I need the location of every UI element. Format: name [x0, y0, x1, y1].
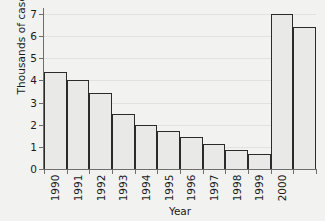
- bar-slot: [67, 14, 90, 169]
- bar: [203, 144, 226, 169]
- x-axis-tick-labels: 1990199119921993199419951996199719981999…: [44, 174, 316, 206]
- y-axis-tick-label: 6: [22, 31, 37, 41]
- bar-slot: [112, 14, 135, 169]
- y-axis-tick: [39, 58, 44, 59]
- bar-slot: [225, 14, 248, 169]
- bar-slot: [44, 14, 67, 169]
- x-axis-title: Year: [44, 205, 316, 217]
- y-axis-tick-label: 7: [22, 9, 37, 19]
- x-label-slot: 1991: [67, 174, 90, 206]
- x-label-slot: [293, 174, 316, 206]
- y-axis-tick: [39, 103, 44, 104]
- x-axis-tick-label: 1998: [231, 175, 243, 202]
- bar: [271, 14, 294, 169]
- bar-slot: [157, 14, 180, 169]
- bar-slot: [180, 14, 203, 169]
- bar: [225, 150, 248, 169]
- y-axis-tick: [39, 125, 44, 126]
- x-axis-tick-label: 1996: [185, 175, 197, 202]
- bar: [44, 72, 67, 169]
- bar: [89, 93, 112, 169]
- bar-series: [44, 14, 316, 169]
- y-axis-tick-label: 1: [22, 142, 37, 152]
- x-label-slot: 2000: [271, 174, 294, 206]
- x-label-slot: 1998: [225, 174, 248, 206]
- x-label-slot: 1996: [180, 174, 203, 206]
- y-axis-tick-label: 3: [22, 98, 37, 108]
- y-axis-tick: [39, 36, 44, 37]
- y-axis-tick-label: 5: [22, 53, 37, 63]
- x-label-slot: 1992: [89, 174, 112, 206]
- x-axis-tick-label: 1990: [49, 175, 61, 202]
- x-axis-tick-label: 1993: [117, 175, 129, 202]
- bar-slot: [135, 14, 158, 169]
- x-label-slot: 1994: [135, 174, 158, 206]
- x-label-slot: 1993: [112, 174, 135, 206]
- bar-slot: [248, 14, 271, 169]
- bar-chart: Thousands of cases 01234567 199019911992…: [0, 0, 325, 221]
- x-axis-tick: [316, 169, 317, 174]
- bar: [293, 27, 316, 169]
- y-axis-tick: [39, 80, 44, 81]
- bar-slot: [293, 14, 316, 169]
- bar-slot: [89, 14, 112, 169]
- y-axis-tick-label: 4: [22, 75, 37, 85]
- x-axis-tick-label: 1991: [72, 175, 84, 202]
- x-label-slot: 1999: [248, 174, 271, 206]
- x-axis-tick-label: 2000: [276, 175, 288, 202]
- y-axis-tick-label: 0: [22, 164, 37, 174]
- y-axis-tick: [39, 14, 44, 15]
- plot-area: 01234567: [44, 14, 316, 169]
- x-axis-tick-label: 1992: [95, 175, 107, 202]
- x-axis-tick-label: 1999: [253, 175, 265, 202]
- bar: [112, 114, 135, 169]
- bar: [157, 131, 180, 169]
- x-label-slot: 1990: [44, 174, 67, 206]
- bar: [180, 137, 203, 169]
- x-label-slot: 1997: [203, 174, 226, 206]
- x-axis-tick-label: 1997: [208, 175, 220, 202]
- y-axis-tick: [39, 147, 44, 148]
- bar-slot: [203, 14, 226, 169]
- bar: [248, 154, 271, 170]
- y-axis-tick-label: 2: [22, 120, 37, 130]
- bar: [135, 125, 158, 169]
- bar-slot: [271, 14, 294, 169]
- x-label-slot: 1995: [157, 174, 180, 206]
- bar: [67, 80, 90, 169]
- x-axis-tick-label: 1995: [163, 175, 175, 202]
- x-axis-tick-label: 1994: [140, 175, 152, 202]
